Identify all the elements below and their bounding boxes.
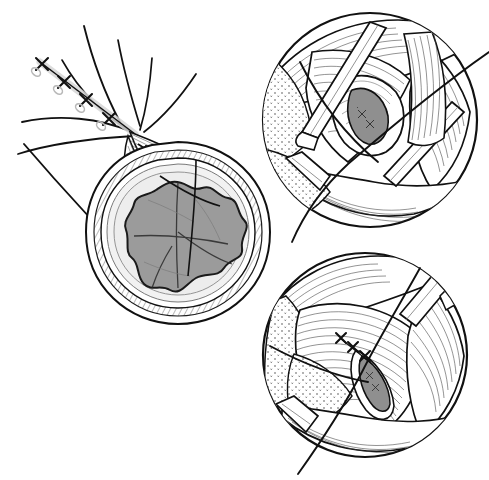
surgical-illustration-figure bbox=[0, 0, 489, 480]
illustration-canvas bbox=[0, 0, 489, 480]
